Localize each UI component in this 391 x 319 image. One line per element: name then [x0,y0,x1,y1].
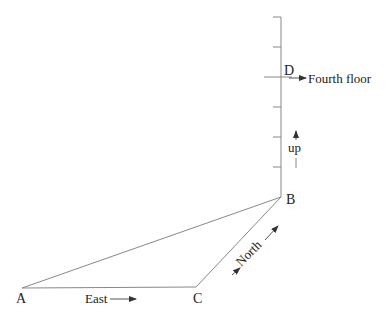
displacement-diagram: A C B D Fourth floor up East North [0,0,391,319]
label-north: North [233,237,265,269]
label-fourth-floor: Fourth floor [308,71,372,86]
line-c-to-b [196,197,281,287]
north-arrow-upper [265,226,278,240]
label-c: C [193,291,202,306]
line-a-to-b [22,197,281,288]
label-up: up [288,140,301,155]
label-east: East [85,291,108,306]
label-a: A [16,291,27,306]
line-a-to-c [22,287,196,288]
north-arrow-lower [232,268,240,275]
label-b: B [286,192,295,207]
label-d: D [284,63,294,78]
